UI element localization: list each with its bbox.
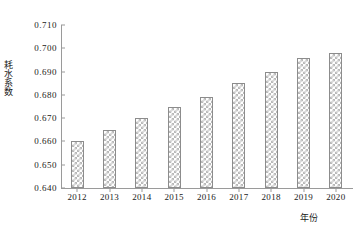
bar — [135, 118, 148, 188]
bar — [329, 53, 342, 188]
bar — [71, 141, 84, 188]
y-tick-label: 0.690 — [34, 67, 57, 77]
y-tick-label: 0.680 — [34, 90, 57, 100]
x-tick-label: 2016 — [197, 192, 216, 202]
x-tick-mark — [174, 188, 175, 192]
bar — [297, 58, 310, 188]
x-axis-title: 年份 — [300, 211, 318, 224]
y-axis-title: 耗水系数 — [1, 18, 15, 138]
x-tick-label: 2015 — [165, 192, 184, 202]
y-tick-label: 0.670 — [34, 113, 57, 123]
bar — [232, 83, 245, 188]
x-tick-mark — [206, 188, 207, 192]
x-tick-label: 2018 — [262, 192, 281, 202]
x-tick-label: 2019 — [294, 192, 313, 202]
y-tick-label: 0.640 — [34, 183, 57, 193]
bar — [200, 97, 213, 188]
x-tick-label: 2013 — [100, 192, 119, 202]
x-tick-label: 2017 — [229, 192, 248, 202]
bar-chart: 耗水系数 0.7100.7000.6900.6800.6700.6600.650… — [0, 0, 359, 230]
x-tick-mark — [77, 188, 78, 192]
bar — [265, 72, 278, 188]
x-tick-mark — [109, 188, 110, 192]
x-tick-mark — [141, 188, 142, 192]
bar — [103, 130, 116, 188]
y-tick-label: 0.700 — [34, 43, 57, 53]
x-tick-label: 2020 — [326, 192, 345, 202]
y-tick-label: 0.710 — [34, 20, 57, 30]
x-tick-mark — [271, 188, 272, 192]
x-tick-mark — [303, 188, 304, 192]
y-tick-label: 0.650 — [34, 160, 57, 170]
x-axis-line — [61, 188, 353, 189]
x-tick-label: 2012 — [68, 192, 87, 202]
plot-area — [61, 25, 352, 188]
x-tick-mark — [335, 188, 336, 192]
bar — [168, 107, 181, 189]
y-tick-label: 0.660 — [34, 136, 57, 146]
x-tick-mark — [238, 188, 239, 192]
x-tick-label: 2014 — [132, 192, 151, 202]
